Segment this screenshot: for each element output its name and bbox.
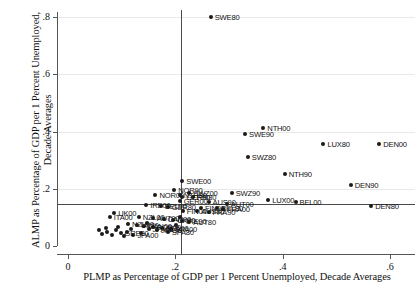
scatter-point — [159, 204, 163, 208]
scatter-point — [104, 226, 108, 230]
scatter-point — [142, 224, 146, 228]
scatter-point — [283, 172, 287, 176]
x-axis-label: PLMP as Percentage of GDP per 1 Percent … — [55, 271, 419, 283]
x-tick-mark — [175, 255, 176, 259]
x-tick-label: .6 — [375, 261, 405, 272]
y-tick-mark — [53, 189, 57, 190]
x-tick-mark — [283, 255, 284, 259]
x-tick-mark — [68, 255, 69, 259]
y-axis-line — [57, 12, 58, 246]
scatter-point-label: ITA00 — [114, 213, 133, 222]
scatter-point — [261, 126, 265, 130]
scatter-point-label: NTH90 — [289, 170, 312, 179]
scatter-point — [122, 234, 126, 238]
scatter-point — [166, 230, 170, 234]
scatter-point — [131, 233, 135, 237]
scatter-point-label: DEN90 — [355, 181, 378, 190]
scatter-point — [135, 223, 139, 227]
scatter-point-label: SWE80 — [215, 13, 240, 22]
scatter-point — [369, 204, 373, 208]
scatter-point-label: NTH00 — [267, 124, 290, 133]
scatter-point — [349, 183, 353, 187]
scatter-point — [209, 15, 213, 19]
y-tick-mark — [53, 17, 57, 18]
scatter-point — [116, 225, 120, 229]
scatter-point — [139, 231, 143, 235]
scatter-point — [195, 209, 199, 213]
scatter-point — [178, 215, 182, 219]
scatter-point-label: DEN80 — [375, 202, 398, 211]
scatter-point-label: SWE00 — [186, 177, 211, 186]
scatter-point-label: FRA90 — [213, 208, 236, 217]
y-tick-label: .6 — [28, 68, 50, 79]
scatter-point — [243, 132, 247, 136]
scatter-point — [181, 209, 185, 213]
x-axis-line — [57, 254, 415, 255]
scatter-chart: ALMP as Percentage of GDP per 1 Percent … — [0, 0, 419, 307]
scatter-point — [100, 232, 104, 236]
y-tick-mark — [53, 246, 57, 247]
scatter-point — [321, 142, 325, 146]
scatter-point — [108, 215, 112, 219]
scatter-point — [129, 227, 133, 231]
scatter-point — [97, 228, 101, 232]
gridline-horizontal — [57, 132, 415, 133]
scatter-point — [166, 205, 170, 209]
scatter-point — [377, 142, 381, 146]
scatter-point — [230, 191, 234, 195]
gridline-horizontal — [57, 74, 415, 75]
scatter-point — [162, 217, 166, 221]
scatter-point — [110, 233, 114, 237]
scatter-point — [174, 223, 178, 227]
x-tick-mark — [390, 255, 391, 259]
scatter-point — [145, 221, 149, 225]
y-tick-mark — [53, 132, 57, 133]
x-tick-label: .2 — [160, 261, 190, 272]
scatter-point — [207, 210, 211, 214]
scatter-point — [246, 155, 250, 159]
x-tick-label: .4 — [268, 261, 298, 272]
scatter-point — [105, 230, 109, 234]
y-tick-label: .2 — [28, 183, 50, 194]
scatter-point — [294, 200, 298, 204]
scatter-point-label: BEL00 — [300, 198, 322, 207]
scatter-point-label: SPA80 — [172, 228, 194, 237]
scatter-point — [180, 179, 184, 183]
scatter-point-label: SWZ90 — [236, 189, 260, 198]
scatter-point — [153, 193, 157, 197]
scatter-point — [180, 219, 184, 223]
scatter-point-label: DEN00 — [383, 140, 406, 149]
scatter-point-label: LUX80 — [327, 140, 349, 149]
scatter-point — [144, 203, 148, 207]
scatter-point — [125, 230, 129, 234]
scatter-point — [171, 218, 175, 222]
x-tick-label: 0 — [53, 261, 83, 272]
y-tick-mark — [53, 74, 57, 75]
scatter-point — [126, 222, 130, 226]
y-tick-label: .8 — [28, 11, 50, 22]
scatter-point-label: SWZ80 — [252, 153, 276, 162]
scatter-point — [114, 228, 118, 232]
scatter-point-label: LUX00 — [272, 196, 294, 205]
y-tick-label: 0 — [28, 240, 50, 251]
y-tick-label: .4 — [28, 126, 50, 137]
scatter-point — [266, 198, 270, 202]
